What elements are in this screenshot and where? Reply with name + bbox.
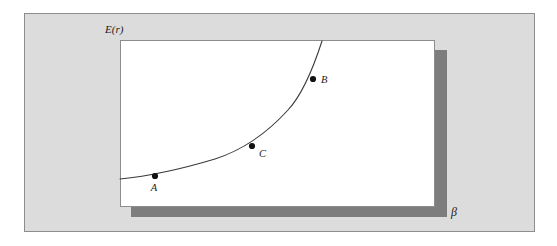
point-label-a: A bbox=[150, 182, 158, 193]
beta-label: β bbox=[450, 205, 457, 219]
diagram-canvas: E(r) A C B β bbox=[0, 0, 557, 246]
figure-root: E(r) A C B β bbox=[0, 0, 557, 246]
point-marker-b bbox=[310, 76, 316, 82]
point-marker-a bbox=[152, 173, 158, 179]
point-label-c: C bbox=[259, 148, 267, 159]
point-label-b: B bbox=[321, 74, 328, 85]
field-label: E(r) bbox=[104, 23, 124, 36]
plot-area bbox=[121, 41, 435, 207]
point-marker-c bbox=[249, 143, 255, 149]
